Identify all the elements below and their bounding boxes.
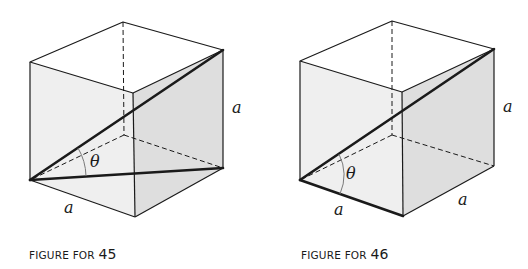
- caption-prefix-46: FIGURE FOR: [301, 249, 367, 261]
- angle-label-46: θ: [346, 164, 356, 183]
- caption-figure-45: FIGURE FOR 45: [29, 246, 117, 262]
- edge-label-bottom-45: a: [64, 198, 74, 217]
- edge-label-right-45: a: [232, 98, 242, 117]
- cube-figure-45: θ a a: [30, 22, 242, 217]
- edge-label-right-46: a: [503, 97, 513, 116]
- cube-figure-46: θ a a a: [300, 21, 513, 219]
- caption-number-45: 45: [98, 246, 116, 262]
- caption-number-46: 46: [370, 246, 388, 262]
- figures-canvas: θ a a θ a a a: [0, 0, 528, 269]
- caption-prefix-45: FIGURE FOR: [29, 249, 95, 261]
- angle-label-45: θ: [90, 152, 100, 171]
- edge-label-bottom-right-46: a: [458, 190, 468, 209]
- edge-label-bottom-left-46: a: [334, 200, 344, 219]
- caption-figure-46: FIGURE FOR 46: [301, 246, 389, 262]
